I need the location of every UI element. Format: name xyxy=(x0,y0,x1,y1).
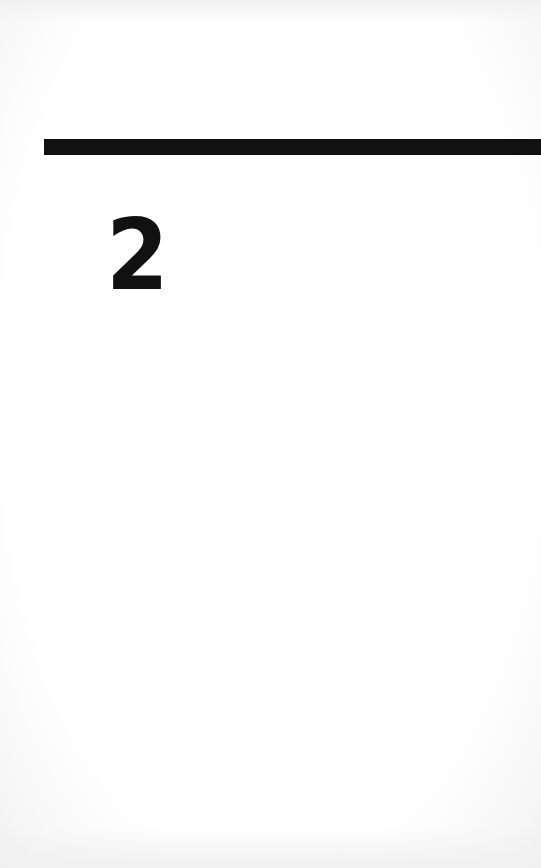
chapter-heading-rule xyxy=(44,139,541,155)
book-page: 2 xyxy=(0,0,541,868)
chapter-number: 2 xyxy=(106,206,169,304)
